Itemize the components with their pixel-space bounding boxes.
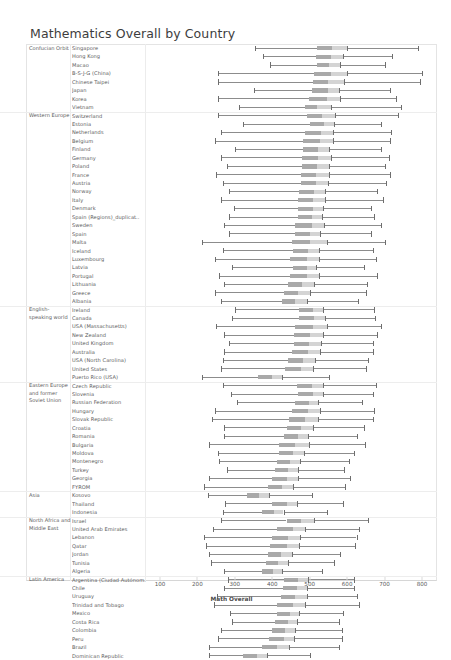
- table-row[interactable]: Korea: [26, 95, 437, 103]
- table-row[interactable]: Albania: [26, 297, 437, 305]
- table-row[interactable]: Indonesia: [26, 508, 437, 516]
- table-row[interactable]: Luxembourg: [26, 255, 437, 263]
- table-row[interactable]: Sweden: [26, 221, 437, 229]
- range-mark[interactable]: [145, 508, 437, 516]
- table-row[interactable]: Bulgaria: [26, 441, 437, 449]
- table-row[interactable]: Denmark: [26, 204, 437, 212]
- range-mark[interactable]: [145, 297, 437, 305]
- range-mark[interactable]: [145, 272, 437, 280]
- table-row[interactable]: Malta: [26, 238, 437, 246]
- table-row[interactable]: FYROM: [26, 483, 437, 491]
- range-mark[interactable]: [145, 263, 437, 271]
- range-mark[interactable]: [145, 154, 437, 162]
- table-row[interactable]: Germany: [26, 154, 437, 162]
- range-mark[interactable]: [145, 643, 437, 651]
- range-mark[interactable]: [145, 415, 437, 423]
- table-row[interactable]: Vietnam: [26, 103, 437, 111]
- range-mark[interactable]: [145, 457, 437, 465]
- table-row[interactable]: Croatia: [26, 424, 437, 432]
- range-mark[interactable]: [145, 542, 437, 550]
- table-row[interactable]: Netherlands: [26, 128, 437, 136]
- table-row[interactable]: Chinese Taipei: [26, 78, 437, 86]
- range-mark[interactable]: [145, 550, 437, 558]
- table-row[interactable]: Finland: [26, 145, 437, 153]
- table-row[interactable]: Peru: [26, 635, 437, 643]
- table-row[interactable]: Lebanon: [26, 533, 437, 541]
- table-row[interactable]: Puerto Rico (USA): [26, 373, 437, 381]
- table-row[interactable]: Hong Kong: [26, 52, 437, 60]
- range-mark[interactable]: [145, 103, 437, 111]
- range-mark[interactable]: [145, 365, 437, 373]
- table-row[interactable]: Portugal: [26, 272, 437, 280]
- table-row[interactable]: Macao: [26, 61, 437, 69]
- table-row[interactable]: Turkey: [26, 466, 437, 474]
- table-row[interactable]: Norway: [26, 187, 437, 195]
- table-row[interactable]: Poland: [26, 162, 437, 170]
- range-mark[interactable]: [145, 390, 437, 398]
- range-mark[interactable]: [145, 289, 437, 297]
- table-row[interactable]: USA (Massachusetts): [26, 322, 437, 330]
- range-mark[interactable]: [145, 348, 437, 356]
- table-row[interactable]: Lithuania: [26, 280, 437, 288]
- range-mark[interactable]: [145, 128, 437, 136]
- table-row[interactable]: Latvia: [26, 263, 437, 271]
- range-mark[interactable]: [145, 382, 437, 390]
- range-mark[interactable]: [145, 517, 437, 525]
- table-row[interactable]: Colombia: [26, 626, 437, 634]
- table-row[interactable]: Moldova: [26, 449, 437, 457]
- table-row[interactable]: United Kingdom: [26, 339, 437, 347]
- range-mark[interactable]: [145, 525, 437, 533]
- range-mark[interactable]: [145, 626, 437, 634]
- table-row[interactable]: Russian Federation: [26, 398, 437, 406]
- range-mark[interactable]: [145, 44, 437, 52]
- range-mark[interactable]: [145, 432, 437, 440]
- range-mark[interactable]: [145, 255, 437, 263]
- table-row[interactable]: Czech Republic: [26, 382, 437, 390]
- range-mark[interactable]: [145, 500, 437, 508]
- range-mark[interactable]: [145, 483, 437, 491]
- range-mark[interactable]: [145, 78, 437, 86]
- range-mark[interactable]: [145, 533, 437, 541]
- table-row[interactable]: Dominican Republic: [26, 652, 437, 660]
- range-mark[interactable]: [145, 652, 437, 660]
- table-row[interactable]: Singapore: [26, 44, 437, 52]
- table-row[interactable]: Thailand: [26, 500, 437, 508]
- table-row[interactable]: Italy: [26, 196, 437, 204]
- range-mark[interactable]: [145, 398, 437, 406]
- range-mark[interactable]: [145, 247, 437, 255]
- range-mark[interactable]: [145, 491, 437, 499]
- range-mark[interactable]: [145, 86, 437, 94]
- range-mark[interactable]: [145, 230, 437, 238]
- table-row[interactable]: Slovak Republic: [26, 415, 437, 423]
- table-row[interactable]: United Arab Emirates: [26, 525, 437, 533]
- range-mark[interactable]: [145, 449, 437, 457]
- table-row[interactable]: USA (North Carolina): [26, 356, 437, 364]
- range-mark[interactable]: [145, 474, 437, 482]
- range-mark[interactable]: [145, 407, 437, 415]
- range-mark[interactable]: [145, 179, 437, 187]
- range-mark[interactable]: [145, 331, 437, 339]
- range-mark[interactable]: [145, 280, 437, 288]
- table-row[interactable]: Georgia: [26, 474, 437, 482]
- table-row[interactable]: New Zealand: [26, 331, 437, 339]
- table-row[interactable]: Brazil: [26, 643, 437, 651]
- table-row[interactable]: Estonia: [26, 120, 437, 128]
- range-mark[interactable]: [145, 213, 437, 221]
- table-row[interactable]: Montenegro: [26, 457, 437, 465]
- table-row[interactable]: Japan: [26, 86, 437, 94]
- range-mark[interactable]: [145, 567, 437, 575]
- table-row[interactable]: France: [26, 171, 437, 179]
- table-row[interactable]: Iceland: [26, 247, 437, 255]
- range-mark[interactable]: [145, 221, 437, 229]
- range-mark[interactable]: [145, 441, 437, 449]
- table-row[interactable]: Kosovo: [26, 491, 437, 499]
- table-row[interactable]: Qatar: [26, 542, 437, 550]
- range-mark[interactable]: [145, 187, 437, 195]
- range-mark[interactable]: [145, 339, 437, 347]
- range-mark[interactable]: [145, 120, 437, 128]
- range-mark[interactable]: [145, 145, 437, 153]
- range-mark[interactable]: [145, 162, 437, 170]
- table-row[interactable]: Slovenia: [26, 390, 437, 398]
- range-mark[interactable]: [145, 61, 437, 69]
- table-row[interactable]: Algeria: [26, 567, 437, 575]
